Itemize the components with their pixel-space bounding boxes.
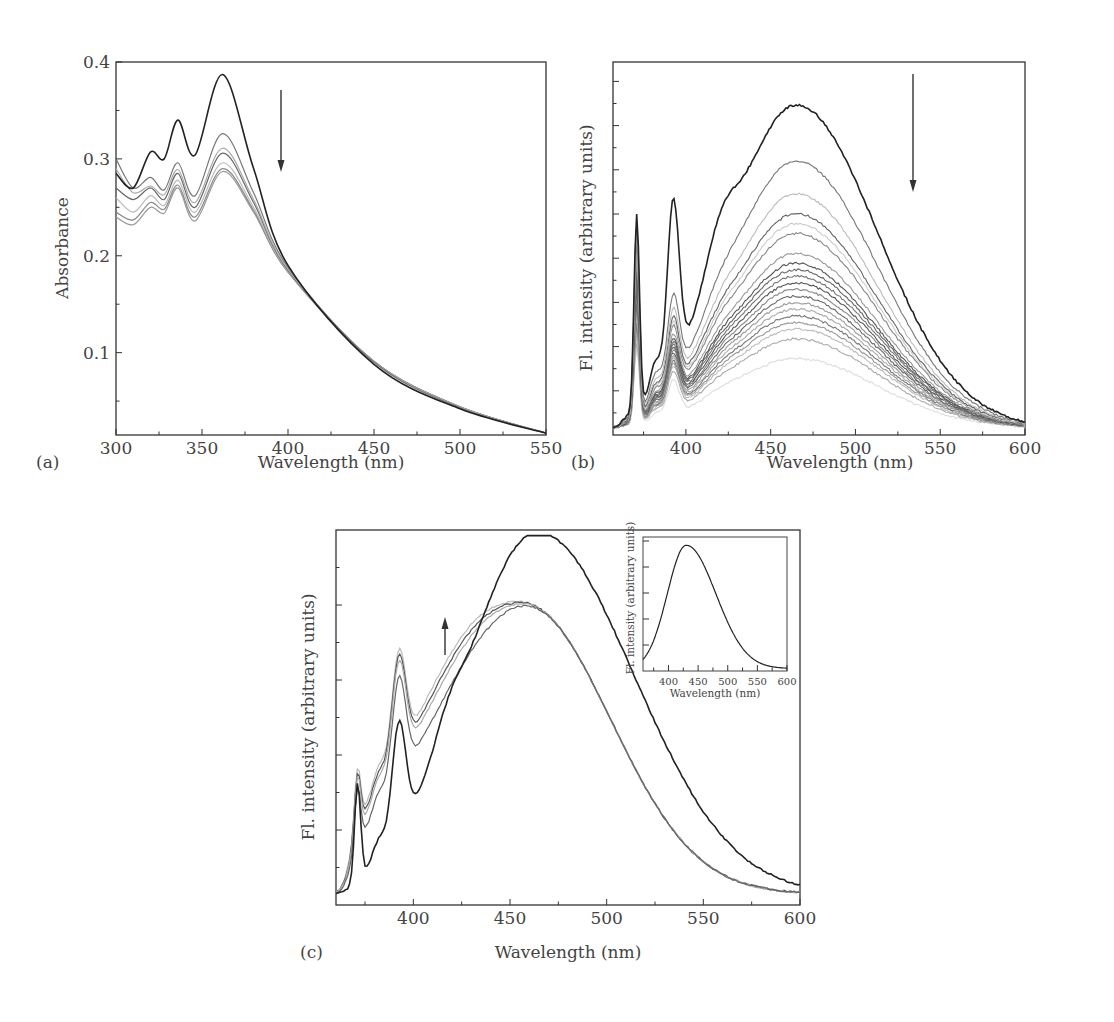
x-tick-label: 600 [784, 908, 816, 928]
absorbance-series [116, 171, 546, 433]
y-tick-label: 0.3 [83, 149, 110, 169]
fluorescence-curves [336, 536, 800, 894]
x-tick-label: 550 [748, 676, 767, 687]
x-tick-label: 400 [659, 676, 678, 687]
panel-a-absorbance-chart: 3003504004505005500.10.20.30.4 Wavelengt… [36, 52, 562, 472]
y-axis-label: Fl. intensity (arbitrary units) [576, 124, 596, 371]
absorbance-curves [116, 75, 546, 434]
panel-b-fluorescence-chart: 400450500550600 Wavelength (nm) Fl. inte… [571, 62, 1041, 472]
panel-tag: (a) [36, 452, 59, 472]
x-tick-label: 450 [689, 676, 708, 687]
x-tick-label: 550 [687, 908, 719, 928]
inset-chart: 400450500550600 Wavelength (nm) Fl. inte… [624, 522, 797, 699]
y-tick-label: 0.4 [83, 52, 110, 72]
y-axis-label: Absorbance [52, 197, 72, 300]
fluorescence-series [613, 233, 1025, 428]
inset-series [643, 545, 787, 668]
y-tick-label: 0.2 [83, 246, 110, 266]
x-tick-label: 600 [777, 676, 796, 687]
arrow-down-icon [910, 74, 917, 192]
axes-ticks: 400450500550600 [336, 568, 816, 929]
arrow-up-icon [442, 617, 449, 655]
x-tick-label: 400 [670, 438, 702, 458]
x-axis-label: Wavelength (nm) [495, 942, 642, 962]
inset-x-axis-label: Wavelength (nm) [670, 687, 761, 699]
fluorescence-series [613, 193, 1025, 427]
panel-tag: (b) [571, 452, 595, 472]
x-axis-label: Wavelength (nm) [767, 452, 914, 472]
y-tick-label: 0.1 [83, 343, 110, 363]
x-tick-label: 350 [186, 438, 218, 458]
panel-tag: (c) [300, 942, 323, 962]
x-tick-label: 450 [494, 908, 526, 928]
arrow-down-icon [278, 90, 285, 172]
axes-ticks: 400450500550600 [613, 81, 1041, 458]
absorbance-series [116, 169, 546, 434]
fluorescence-series [613, 276, 1025, 428]
absorbance-series [116, 163, 546, 433]
x-tick-label: 300 [100, 438, 132, 458]
inset-curve [643, 545, 787, 668]
fluorescence-series [613, 105, 1025, 428]
x-tick-label: 400 [397, 908, 429, 928]
figure-canvas: 3003504004505005500.10.20.30.4 Wavelengt… [0, 0, 1114, 1022]
absorbance-series [116, 134, 546, 433]
axes-ticks: 3003504004505005500.10.20.30.4 [83, 52, 562, 458]
x-tick-label: 550 [530, 438, 562, 458]
fluorescence-curves [613, 105, 1025, 429]
x-axis-label: Wavelength (nm) [258, 452, 405, 472]
inset-ticks: 400450500550600 [643, 541, 797, 687]
x-tick-label: 600 [1009, 438, 1041, 458]
fluorescence-series [336, 536, 800, 894]
inset-y-axis-label: Fl. intensity (arbitrary units) [624, 522, 636, 675]
absorbance-series [116, 75, 546, 434]
plot-frame [336, 530, 800, 905]
absorbance-series [116, 153, 546, 433]
plot-frame [116, 62, 546, 435]
x-tick-label: 550 [924, 438, 956, 458]
x-tick-label: 500 [590, 908, 622, 928]
x-tick-label: 500 [444, 438, 476, 458]
panel-c-fluorescence-chart: 400450500550600 Wavelength (nm) Fl. inte… [298, 522, 816, 962]
x-tick-label: 500 [718, 676, 737, 687]
y-axis-label: Fl. intensity (arbitrary units) [298, 593, 318, 840]
